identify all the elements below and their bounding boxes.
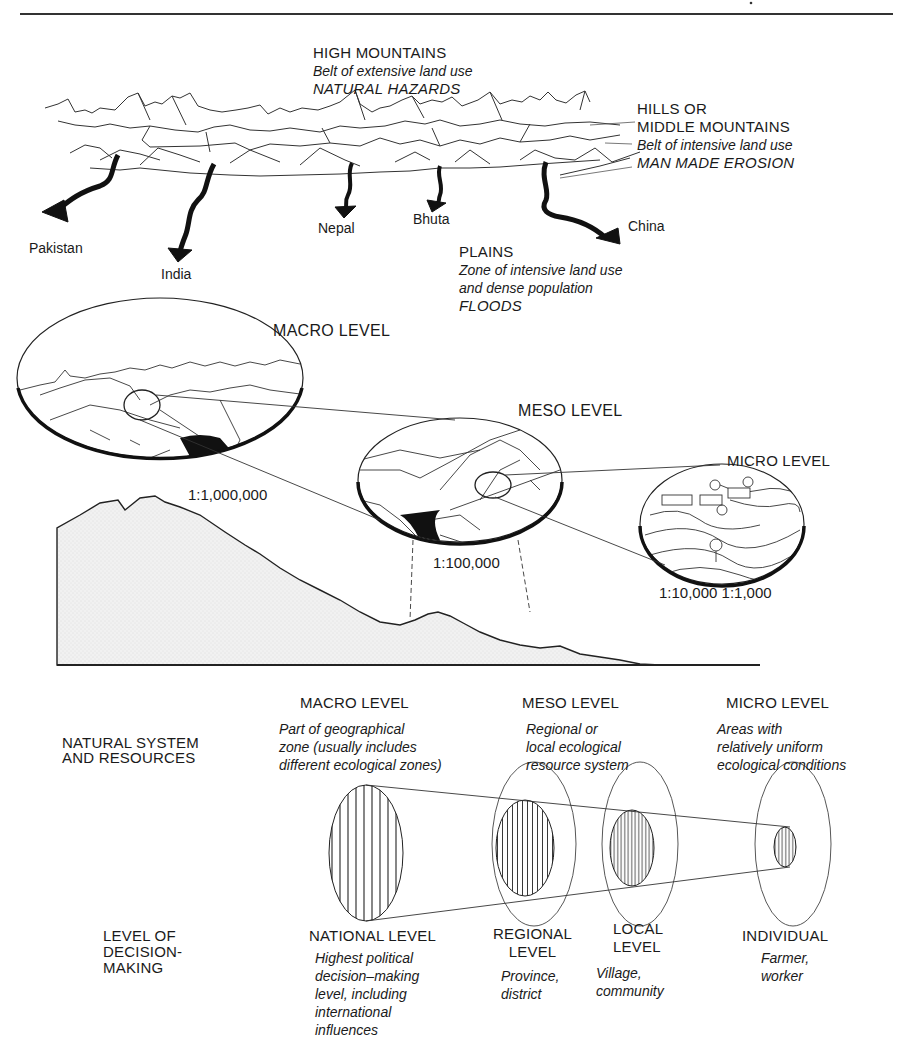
national-desc-3: level, including xyxy=(315,985,436,1003)
high-mountains-label: HIGH MOUNTAINS Belt of extensive land us… xyxy=(313,44,473,98)
header-rule xyxy=(20,2,893,14)
macro-scale: 1:1,000,000 xyxy=(188,486,267,503)
individual-level-title: INDIVIDUAL xyxy=(742,927,828,945)
natural-desc-macro-1: Part of geographical xyxy=(279,720,442,738)
river-label-china: China xyxy=(628,218,665,234)
individual-desc-2: worker xyxy=(761,967,828,985)
natural-desc-meso: Regional or local ecological resource sy… xyxy=(526,720,629,774)
decision-level-regional: REGIONAL LEVEL Province, district xyxy=(493,925,572,1003)
regional-desc-1: Province, xyxy=(501,967,572,985)
natural-desc-macro: Part of geographical zone (usually inclu… xyxy=(279,720,442,774)
arrow-nepal xyxy=(335,206,356,218)
high-mountains-title: HIGH MOUNTAINS xyxy=(313,44,473,62)
national-desc-4: international xyxy=(315,1003,436,1021)
macro-inner-circle xyxy=(124,390,160,420)
col-header-macro: MACRO LEVEL xyxy=(300,694,409,711)
meso-scale: 1:100,000 xyxy=(433,554,500,571)
river-label-nepal: Nepal xyxy=(318,220,355,236)
row-label-decision-making: LEVEL OF DECISION- MAKING xyxy=(103,928,182,976)
river-label-bhuta: Bhuta xyxy=(413,211,450,227)
row-decision-line1: LEVEL OF xyxy=(103,928,182,944)
row-natural-line2: AND RESOURCES xyxy=(62,749,199,767)
hills-title-2: MIDDLE MOUNTAINS xyxy=(637,118,794,136)
local-desc-2: community xyxy=(596,982,664,1000)
natural-desc-meso-2: local ecological xyxy=(526,738,629,756)
decision-level-individual: INDIVIDUAL Farmer, worker xyxy=(742,927,828,985)
natural-desc-macro-2: zone (usually includes xyxy=(279,738,442,756)
natural-desc-micro-2: relatively uniform xyxy=(717,738,846,756)
hills-desc: Belt of intensive land use xyxy=(637,136,794,154)
meso-lens xyxy=(358,418,562,560)
local-desc-1: Village, xyxy=(596,964,664,982)
decision-level-national: NATIONAL LEVEL Highest political decisio… xyxy=(309,927,436,1039)
natural-desc-macro-3: different ecological zones) xyxy=(279,756,442,774)
hills-label: HILLS OR MIDDLE MOUNTAINS Belt of intens… xyxy=(637,100,794,172)
national-level-title: NATIONAL LEVEL xyxy=(309,927,436,945)
plains-desc-1: Zone of intensive land use xyxy=(459,261,622,279)
plains-hazard: FLOODS xyxy=(459,297,622,315)
decision-level-local: LOCAL LEVEL Village, community xyxy=(596,920,664,1000)
natural-desc-meso-1: Regional or xyxy=(526,720,629,738)
natural-desc-meso-3: resource system xyxy=(526,756,629,774)
high-mountains-hazard: NATURAL HAZARDS xyxy=(313,80,473,98)
arrow-pakistan xyxy=(42,200,68,222)
plains-title: PLAINS xyxy=(459,243,622,261)
col-header-micro: MICRO LEVEL xyxy=(726,694,829,711)
decision-funnel-diagram xyxy=(329,762,831,926)
micro-lens xyxy=(640,464,804,586)
high-mountains-desc: Belt of extensive land use xyxy=(313,62,473,80)
regional-desc-2: district xyxy=(501,985,572,1003)
plains-desc-2: and dense population xyxy=(459,279,622,297)
river-label-india: India xyxy=(161,266,191,282)
hills-title-1: HILLS OR xyxy=(637,100,794,118)
arrow-india xyxy=(168,248,192,262)
natural-desc-micro-3: ecological conditions xyxy=(717,756,846,774)
national-desc-5: influences xyxy=(315,1021,436,1039)
macro-lens xyxy=(17,298,303,480)
national-desc-2: decision–making xyxy=(315,967,436,985)
micro-level-title: MICRO LEVEL xyxy=(727,452,830,469)
natural-desc-micro-1: Areas with xyxy=(717,720,846,738)
local-level-title-2: LEVEL xyxy=(613,938,664,956)
local-level-title-1: LOCAL xyxy=(613,920,664,938)
row-decision-line3: MAKING xyxy=(103,960,182,976)
regional-level-title-2: LEVEL xyxy=(493,943,572,961)
regional-level-title-1: REGIONAL xyxy=(493,925,572,943)
meso-level-title: MESO LEVEL xyxy=(518,402,622,420)
macro-level-title: MACRO LEVEL xyxy=(273,322,390,340)
national-desc-1: Highest political xyxy=(315,949,436,967)
col-header-meso: MESO LEVEL xyxy=(522,694,619,711)
row-decision-line2: DECISION- xyxy=(103,944,182,960)
mountain-range-illustration xyxy=(45,90,640,176)
individual-desc-1: Farmer, xyxy=(761,949,828,967)
hills-hazard: MAN MADE EROSION xyxy=(637,154,794,172)
river-label-pakistan: Pakistan xyxy=(29,240,83,256)
micro-scale: 1:10,000 1:1,000 xyxy=(659,584,772,601)
natural-desc-micro: Areas with relatively uniform ecological… xyxy=(717,720,846,774)
row-label-natural-system: NATURAL SYSTEM AND RESOURCES xyxy=(62,734,199,767)
plains-label: PLAINS Zone of intensive land use and de… xyxy=(459,243,622,315)
